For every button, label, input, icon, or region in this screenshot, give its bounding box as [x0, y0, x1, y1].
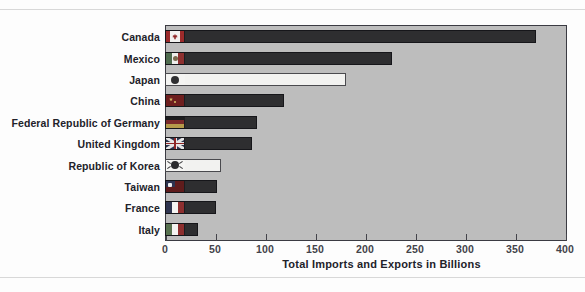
bar[interactable]	[165, 30, 536, 43]
figure-top-rule	[0, 9, 585, 10]
taiwan-flag-icon	[166, 181, 185, 192]
x-axis-tick-label: 300	[456, 243, 474, 255]
bar[interactable]	[165, 159, 221, 172]
germany-flag-icon	[166, 117, 185, 128]
x-axis-tick-label: 400	[556, 243, 574, 255]
france-flag-icon	[166, 202, 185, 213]
x-axis-title: Total Imports and Exports in Billions	[0, 258, 585, 270]
bar[interactable]	[165, 52, 392, 65]
bar[interactable]	[165, 180, 217, 193]
bar-row[interactable]	[165, 52, 392, 65]
x-axis-tick-label: 350	[506, 243, 524, 255]
canada-flag-icon	[166, 31, 185, 42]
bar[interactable]	[165, 201, 216, 214]
bar[interactable]	[165, 73, 346, 86]
bar-row[interactable]	[165, 137, 252, 150]
x-axis-tick-label: 100	[256, 243, 274, 255]
category-label: Taiwan	[0, 181, 160, 193]
x-axis-tick-label: 0	[162, 243, 168, 255]
united-kingdom-flag-icon	[166, 138, 185, 149]
bar-row[interactable]	[165, 30, 536, 43]
bar[interactable]	[165, 137, 252, 150]
bar-row[interactable]	[165, 180, 217, 193]
japan-flag-icon	[166, 74, 185, 85]
category-label: Canada	[0, 31, 160, 43]
bar[interactable]	[165, 94, 284, 107]
bar-row[interactable]	[165, 94, 284, 107]
x-axis-tick-label: 200	[356, 243, 374, 255]
category-label: Italy	[0, 224, 160, 236]
bar-row[interactable]	[165, 116, 257, 129]
category-label: Federal Republic of Germany	[0, 117, 160, 129]
bar[interactable]	[165, 223, 198, 236]
bar-row[interactable]	[165, 223, 198, 236]
bar-row[interactable]	[165, 73, 346, 86]
x-axis-tick-label: 150	[306, 243, 324, 255]
x-axis-tick	[566, 234, 567, 241]
bar[interactable]	[165, 116, 257, 129]
bar-row[interactable]	[165, 159, 221, 172]
bars-layer	[165, 25, 565, 239]
italy-flag-icon	[166, 224, 185, 235]
category-label: France	[0, 202, 160, 214]
category-label: United Kingdom	[0, 138, 160, 150]
china-flag-icon	[166, 95, 185, 106]
category-label: Mexico	[0, 53, 160, 65]
south-korea-flag-icon	[166, 160, 185, 171]
chart-figure: CanadaMexicoJapanChinaFederal Republic o…	[0, 0, 585, 292]
category-label: China	[0, 95, 160, 107]
x-axis-tick-label: 50	[209, 243, 221, 255]
mexico-flag-icon	[166, 53, 185, 64]
category-label: Japan	[0, 74, 160, 86]
category-label: Republic of Korea	[0, 160, 160, 172]
bar-row[interactable]	[165, 201, 216, 214]
x-axis-tick-label: 250	[406, 243, 424, 255]
x-axis-title-text: Total Imports and Exports in Billions	[282, 258, 481, 270]
figure-bottom-rule	[0, 277, 585, 278]
